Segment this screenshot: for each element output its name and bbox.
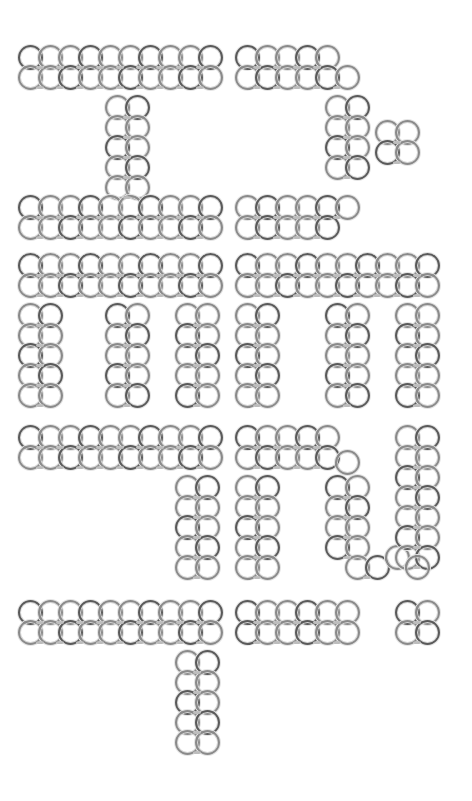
ring-link-icon bbox=[413, 621, 421, 624]
ring-link-icon bbox=[413, 641, 421, 644]
ring-glyph-artwork bbox=[0, 0, 472, 801]
glyph-bottom-dot bbox=[0, 0, 472, 801]
